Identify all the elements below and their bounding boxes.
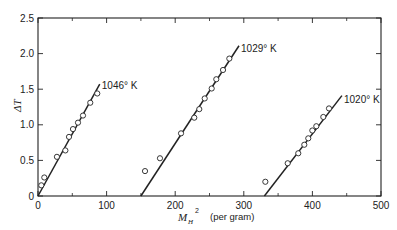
data-point (157, 156, 162, 161)
data-point (306, 136, 311, 141)
data-point (314, 124, 319, 129)
y-tick-label: 0 (28, 191, 34, 202)
data-point (197, 107, 202, 112)
x-tick-label: 100 (98, 200, 115, 211)
data-point (142, 168, 147, 173)
data-point (178, 131, 183, 136)
data-point (42, 175, 47, 180)
series-labels: 1046° K1029° K1020° K (102, 43, 380, 105)
data-point (220, 67, 225, 72)
fit-lines (38, 46, 342, 196)
series-label: 1029° K (241, 43, 277, 54)
series-label: 1020° K (344, 94, 380, 105)
data-point (209, 86, 214, 91)
x-tick-label: 200 (167, 200, 184, 211)
data-point (296, 151, 301, 156)
chart: 0100200300400500 00.51.01.52.02.5 1046° … (0, 0, 397, 230)
y-axis-title: ΔT (11, 99, 23, 113)
x-tick-label: 400 (304, 200, 321, 211)
data-point (285, 161, 290, 166)
x-axis-title-superscript: 2 (195, 207, 199, 214)
data-point (80, 113, 85, 118)
x-axis-unit: (per gram) (210, 211, 254, 222)
y-tick-label: 1.5 (20, 84, 34, 95)
data-point (214, 77, 219, 82)
data-point (39, 183, 44, 188)
x-axis: 0100200300400500 (35, 18, 390, 211)
data-point (227, 56, 232, 61)
data-point (63, 148, 68, 153)
y-tick-label: 0.5 (20, 155, 34, 166)
data-point (263, 179, 268, 184)
x-axis-title-main: M (177, 211, 188, 223)
data-point (202, 96, 207, 101)
data-point (88, 100, 93, 105)
data-point (326, 106, 331, 111)
y-tick-label: 2.0 (20, 48, 34, 59)
data-point (75, 120, 80, 125)
data-point (54, 154, 59, 159)
y-tick-label: 2.5 (20, 13, 34, 24)
data-point (302, 142, 307, 147)
x-tick-label: 500 (373, 200, 390, 211)
data-points (39, 56, 332, 188)
y-tick-label: 1.0 (20, 119, 34, 130)
x-tick-label: 0 (35, 200, 41, 211)
series-label: 1046° K (102, 80, 138, 91)
data-point (310, 128, 315, 133)
x-axis-title-subscript: H (187, 218, 194, 226)
data-point (66, 134, 71, 139)
data-point (95, 91, 100, 96)
data-point (70, 126, 75, 131)
data-point (321, 114, 326, 119)
data-point (192, 115, 197, 120)
x-tick-label: 300 (235, 200, 252, 211)
